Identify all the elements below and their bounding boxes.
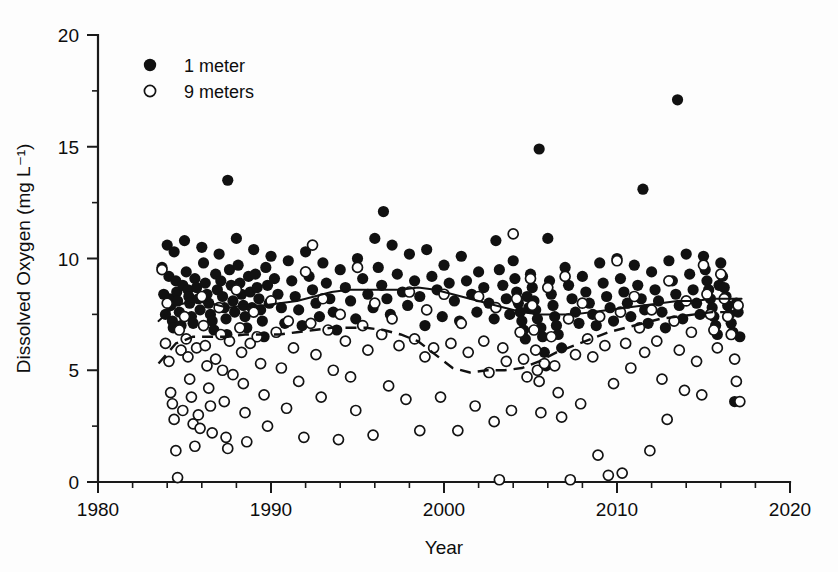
data-point-9m xyxy=(308,240,318,250)
data-point-9m xyxy=(384,381,394,391)
data-point-9m xyxy=(221,432,231,442)
data-point-9m xyxy=(534,376,544,386)
data-point-9m xyxy=(453,426,463,436)
data-point-9m xyxy=(252,332,262,342)
data-point-9m xyxy=(164,356,174,366)
data-point-9m xyxy=(446,338,456,348)
y-tick-label: 0 xyxy=(68,472,79,493)
data-point-1m xyxy=(265,251,276,262)
legend-label: 9 meters xyxy=(184,82,254,102)
legend-label: 1 meter xyxy=(184,56,245,76)
data-point-1m xyxy=(618,286,629,297)
data-point-1m xyxy=(286,275,297,286)
data-point-9m xyxy=(501,356,511,366)
data-point-9m xyxy=(249,307,259,317)
data-point-9m xyxy=(674,345,684,355)
legend-marker-9m xyxy=(144,85,155,96)
data-point-1m xyxy=(307,284,318,295)
data-point-9m xyxy=(484,367,494,377)
data-point-9m xyxy=(401,394,411,404)
data-point-9m xyxy=(197,292,207,302)
data-point-9m xyxy=(716,269,726,279)
data-point-1m xyxy=(357,273,368,284)
data-point-9m xyxy=(199,321,209,331)
data-point-9m xyxy=(207,428,217,438)
data-point-9m xyxy=(640,347,650,357)
data-point-9m xyxy=(387,314,397,324)
data-point-9m xyxy=(370,298,380,308)
data-point-9m xyxy=(600,341,610,351)
data-point-9m xyxy=(180,312,190,322)
data-point-1m xyxy=(632,280,643,291)
data-point-1m xyxy=(373,262,384,273)
data-point-1m xyxy=(688,284,699,295)
data-point-1m xyxy=(672,94,683,105)
data-point-9m xyxy=(479,336,489,346)
data-point-9m xyxy=(652,336,662,346)
data-point-1m xyxy=(402,300,413,311)
data-point-9m xyxy=(593,450,603,460)
data-point-9m xyxy=(508,229,518,239)
data-point-9m xyxy=(276,363,286,373)
data-point-9m xyxy=(351,405,361,415)
data-point-9m xyxy=(557,412,567,422)
data-point-1m xyxy=(253,293,264,304)
data-point-9m xyxy=(157,265,167,275)
data-point-9m xyxy=(174,325,184,335)
data-point-1m xyxy=(200,277,211,288)
data-point-9m xyxy=(647,305,657,315)
data-point-9m xyxy=(565,475,575,485)
chart-legend: 1 meter9 meters xyxy=(144,56,254,102)
data-point-9m xyxy=(204,383,214,393)
data-point-9m xyxy=(519,354,529,364)
data-point-1m xyxy=(214,248,225,259)
data-point-1m xyxy=(437,311,448,322)
data-point-9m xyxy=(306,318,316,328)
data-point-9m xyxy=(358,321,368,331)
data-point-1m xyxy=(257,315,268,326)
data-point-1m xyxy=(217,291,228,302)
data-point-1m xyxy=(335,264,346,275)
data-point-9m xyxy=(333,435,343,445)
data-point-1m xyxy=(461,275,472,286)
data-point-1m xyxy=(501,293,512,304)
data-point-9m xyxy=(709,325,719,335)
data-point-1m xyxy=(715,257,726,268)
data-point-9m xyxy=(536,408,546,418)
data-point-1m xyxy=(260,262,271,273)
data-point-9m xyxy=(283,316,293,326)
data-point-1m xyxy=(392,269,403,280)
data-point-1m xyxy=(293,304,304,315)
data-point-1m xyxy=(473,266,484,277)
data-point-9m xyxy=(288,343,298,353)
data-point-9m xyxy=(702,289,712,299)
data-point-9m xyxy=(259,390,269,400)
data-point-9m xyxy=(522,372,532,382)
data-point-1m xyxy=(426,271,437,282)
data-point-9m xyxy=(603,470,613,480)
data-point-1m xyxy=(421,244,432,255)
data-point-9m xyxy=(733,300,743,310)
data-point-9m xyxy=(316,392,326,402)
data-point-9m xyxy=(178,405,188,415)
data-point-9m xyxy=(730,354,740,364)
data-point-9m xyxy=(301,267,311,277)
data-point-9m xyxy=(186,392,196,402)
data-point-9m xyxy=(577,298,587,308)
data-point-1m xyxy=(414,291,425,302)
data-point-1m xyxy=(250,269,261,280)
data-point-9m xyxy=(531,345,541,355)
y-axis-title: Dissolved Oxygen (mg L⁻¹) xyxy=(13,144,34,374)
data-point-1m xyxy=(248,244,259,255)
data-point-9m xyxy=(171,446,181,456)
data-point-9m xyxy=(415,426,425,436)
data-point-9m xyxy=(193,410,203,420)
y-tick-label: 15 xyxy=(58,137,79,158)
data-point-9m xyxy=(626,363,636,373)
data-point-9m xyxy=(256,359,266,369)
data-point-9m xyxy=(420,352,430,362)
data-point-1m xyxy=(497,280,508,291)
data-point-9m xyxy=(498,343,508,353)
data-point-9m xyxy=(294,376,304,386)
data-point-9m xyxy=(588,352,598,362)
